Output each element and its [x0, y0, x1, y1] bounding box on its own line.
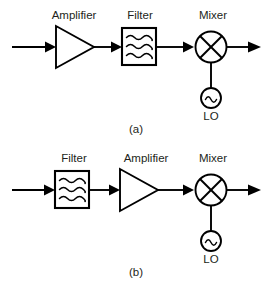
caption-a: (a) — [0, 123, 272, 135]
oscillator-icon-a — [201, 88, 221, 108]
input-line-b — [12, 185, 55, 196]
panel-b-schematic — [0, 143, 272, 285]
label-lo-a: LO — [196, 110, 226, 123]
diagram-panel-b: Filter Amplifier Mixer — [0, 143, 272, 285]
mixer-icon-b — [196, 175, 227, 206]
input-line-a — [12, 42, 56, 53]
filter-icon-b — [55, 171, 89, 208]
diagram-panel-a: Amplifier Filter Mixer — [0, 0, 272, 142]
figure-container: Amplifier Filter Mixer — [0, 0, 272, 285]
label-lo-b: LO — [196, 253, 226, 266]
link-amplifier-filter-a — [94, 42, 122, 53]
link-filter-amplifier-b — [89, 185, 120, 196]
caption-b: (b) — [0, 266, 272, 278]
link-filter-mixer-a — [156, 42, 194, 53]
amplifier-icon-a — [56, 26, 94, 68]
filter-icon-a — [122, 28, 156, 65]
panel-a-schematic — [0, 0, 272, 142]
link-amplifier-mixer-b — [158, 185, 194, 196]
output-line-a — [227, 42, 262, 53]
oscillator-icon-b — [201, 231, 221, 251]
output-line-b — [227, 185, 262, 196]
mixer-icon-a — [196, 32, 227, 63]
amplifier-icon-b — [120, 169, 158, 211]
